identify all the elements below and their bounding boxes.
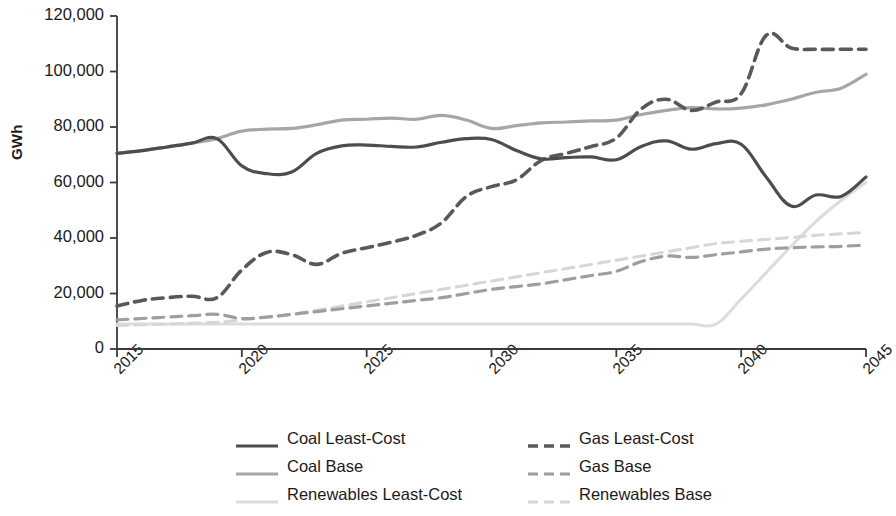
legend-item: Renewables Base — [528, 485, 756, 504]
legend-label: Coal Least-Cost — [287, 429, 405, 448]
legend-item: Coal Least-Cost — [236, 429, 528, 448]
series-line — [117, 33, 866, 306]
legend-label: Coal Base — [287, 457, 363, 476]
chart-legend: Coal Least-CostGas Least-CostCoal BaseGa… — [236, 424, 756, 508]
legend-item: Gas Base — [528, 457, 756, 476]
series-line — [117, 232, 866, 325]
legend-item: Renewables Least-Cost — [236, 485, 528, 504]
legend-label: Gas Base — [579, 457, 651, 476]
series-line — [117, 137, 866, 206]
legend-label: Renewables Base — [579, 485, 712, 504]
legend-label: Gas Least-Cost — [579, 429, 694, 448]
legend-item: Gas Least-Cost — [528, 429, 756, 448]
legend-item: Coal Base — [236, 457, 528, 476]
series-line — [117, 74, 866, 153]
series-line — [117, 183, 866, 327]
legend-label: Renewables Least-Cost — [287, 485, 462, 504]
